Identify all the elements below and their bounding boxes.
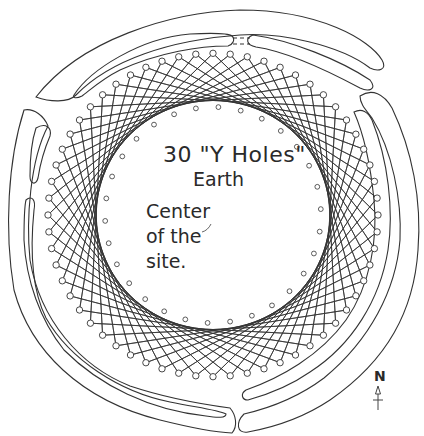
outer-hole	[361, 146, 367, 152]
y-hole	[104, 196, 109, 201]
outer-hole	[292, 352, 298, 358]
string-art-web	[48, 53, 378, 376]
outer-hole	[67, 131, 73, 137]
outer-hole	[99, 332, 105, 338]
outer-hole	[67, 293, 73, 299]
outer-hole	[277, 360, 283, 366]
outer-hole	[244, 54, 250, 60]
outer-hole	[210, 50, 216, 56]
outer-hole	[261, 58, 267, 64]
outer-hole	[367, 162, 373, 168]
outer-hole	[45, 212, 51, 218]
y-hole	[194, 106, 199, 111]
outer-hole	[143, 64, 149, 70]
y-hole	[106, 241, 111, 246]
y-hole	[228, 319, 233, 324]
outer-hole	[87, 104, 93, 110]
y-hole	[143, 297, 148, 302]
y-hole	[134, 136, 139, 141]
outer-hole	[332, 104, 338, 110]
outer-hole	[59, 278, 65, 284]
outer-hole	[53, 162, 59, 168]
outer-hole	[76, 307, 82, 313]
outer-hole	[48, 245, 54, 251]
y-hole	[216, 105, 221, 110]
outer-hole	[143, 360, 149, 366]
outer-hole	[193, 373, 199, 379]
outer-hole	[227, 373, 233, 379]
outer-hole	[59, 146, 65, 152]
outer-hole	[307, 81, 313, 87]
outer-hole	[343, 117, 349, 123]
outer-hole	[367, 262, 373, 268]
earth-label: Earth	[193, 168, 244, 190]
y-hole	[162, 309, 167, 314]
outer-hole	[127, 352, 133, 358]
outer-hole	[176, 370, 182, 376]
outer-hole	[374, 229, 380, 235]
outer-hole	[227, 51, 233, 57]
y-hole	[120, 154, 125, 159]
outer-hole	[343, 307, 349, 313]
y-hole	[183, 317, 188, 322]
outer-hole	[374, 195, 380, 201]
y-hole	[205, 321, 210, 326]
y-hole	[307, 163, 312, 168]
outer-hole	[46, 195, 52, 201]
site-plan-diagram	[0, 0, 424, 436]
outer-hole	[277, 64, 283, 70]
y-hole	[278, 129, 283, 134]
y-hole	[250, 313, 255, 318]
center-label-line3: site.	[146, 250, 186, 272]
outer-hole	[87, 320, 93, 326]
y-hole	[318, 207, 323, 212]
outer-hole	[371, 245, 377, 251]
y-hole	[172, 112, 177, 117]
outer-hole	[210, 374, 216, 380]
outer-hole	[176, 54, 182, 60]
outer-hole	[371, 178, 377, 184]
outer-hole	[48, 178, 54, 184]
outer-hole	[127, 72, 133, 78]
outer-hole	[361, 278, 367, 284]
outer-hole	[76, 117, 82, 123]
y-hole	[317, 229, 322, 234]
y-hole	[103, 219, 108, 224]
y-hole	[270, 303, 275, 308]
outer-hole	[332, 320, 338, 326]
y-hole	[127, 281, 132, 286]
outer-hole	[46, 229, 52, 235]
outer-hole	[353, 131, 359, 137]
outer-hole	[193, 51, 199, 57]
outer-hole	[159, 58, 165, 64]
outer-hole	[244, 370, 250, 376]
outer-hole	[320, 92, 326, 98]
outer-hole	[113, 81, 119, 87]
north-arrow-icon	[373, 386, 383, 410]
y-hole	[312, 251, 317, 256]
y-hole	[110, 174, 115, 179]
bank-top	[36, 10, 384, 101]
y-hole	[238, 108, 243, 113]
y-hole	[301, 271, 306, 276]
outer-hole	[353, 293, 359, 299]
y-hole	[315, 184, 320, 189]
y-hole	[152, 122, 157, 127]
outer-hole	[292, 72, 298, 78]
y-hole	[115, 262, 120, 267]
outer-hole	[159, 366, 165, 372]
outer-hole	[320, 332, 326, 338]
y-holes-ring	[103, 105, 323, 326]
center-pointer-mark	[202, 224, 211, 232]
y-holes-title: 30 "Y Holes"	[163, 142, 306, 167]
y-hole	[287, 289, 292, 294]
north-label: N	[374, 368, 386, 384]
outer-hole	[53, 262, 59, 268]
center-label-line2: of the	[146, 225, 202, 247]
y-hole	[259, 116, 264, 121]
outer-hole	[113, 343, 119, 349]
outer-hole	[99, 92, 105, 98]
center-label-line1: Center	[146, 200, 210, 222]
outer-hole	[261, 366, 267, 372]
outer-hole	[307, 343, 313, 349]
